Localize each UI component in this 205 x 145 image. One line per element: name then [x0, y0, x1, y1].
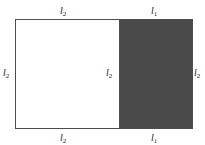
label-bottom-right-subscript: 1 [154, 137, 158, 145]
label-top-right: l1 [151, 6, 157, 16]
label-middle-edge-subscript: 2 [109, 72, 113, 80]
label-left-edge-subscript: 2 [6, 72, 10, 80]
label-bottom-left-subscript: 2 [63, 137, 67, 145]
top-edge [15, 19, 193, 20]
geometry-figure: l2 l1 l2 l2 l2 l2 l1 [0, 0, 205, 145]
label-top-right-subscript: 1 [154, 10, 158, 18]
label-right-edge-subscript: 2 [197, 72, 201, 80]
divider-edge [119, 19, 120, 129]
label-bottom-right: l1 [151, 133, 157, 143]
unshaded-left-rectangle [15, 19, 119, 128]
left-edge [15, 19, 16, 129]
label-bottom-left: l2 [60, 133, 66, 143]
label-right-edge: l2 [194, 68, 200, 78]
label-top-left-subscript: 2 [63, 10, 67, 18]
label-middle-edge: l2 [106, 68, 112, 78]
right-edge [192, 19, 193, 129]
label-left-edge: l2 [3, 68, 9, 78]
label-top-left: l2 [60, 6, 66, 16]
shaded-right-rectangle [119, 19, 192, 128]
bottom-edge [15, 128, 193, 129]
